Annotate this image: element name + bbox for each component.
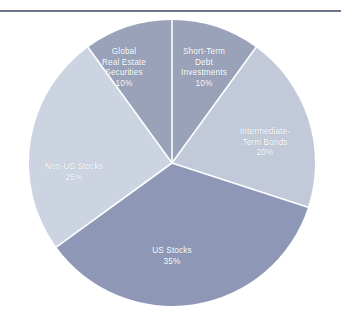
pie-chart-canvas (0, 12, 341, 322)
pie-chart: Global Real Estate Securities 10% Short-… (0, 12, 341, 322)
pie-chart-svg (0, 12, 341, 322)
